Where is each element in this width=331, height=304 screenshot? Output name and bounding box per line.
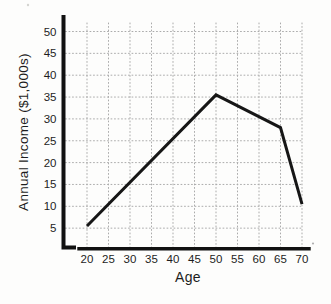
y-tick-label: 45: [44, 47, 57, 59]
x-tick-label: 30: [124, 253, 137, 265]
x-tick-label: 20: [81, 253, 94, 265]
x-tick-label: 55: [231, 253, 244, 265]
y-tick-label: 5: [50, 222, 56, 234]
x-tick-label: 50: [210, 253, 223, 265]
x-axis-title: Age: [175, 269, 201, 285]
x-tick-label: 60: [253, 253, 266, 265]
income-age-line-chart: 2025303540455055606570510152025303540455…: [0, 0, 331, 304]
y-tick-label: 50: [44, 26, 57, 38]
x-tick-label: 65: [274, 253, 287, 265]
y-tick-label: 20: [44, 157, 57, 169]
x-tick-label: 40: [167, 253, 180, 265]
y-axis-title: Annual Income ($1,000s): [16, 53, 31, 211]
y-tick-label: 35: [44, 91, 57, 103]
y-tick-label: 40: [44, 69, 57, 81]
x-tick-label: 70: [296, 253, 309, 265]
y-tick-label: 25: [44, 135, 57, 147]
x-tick-label: 35: [145, 253, 158, 265]
scan-artifact-dot: [312, 242, 314, 244]
y-tick-label: 10: [44, 200, 57, 212]
income-age-chart-figure: 2025303540455055606570510152025303540455…: [0, 0, 331, 304]
x-tick-label: 45: [188, 253, 201, 265]
y-tick-label: 30: [44, 113, 57, 125]
y-axis-line: [64, 17, 75, 248]
x-tick-label: 25: [102, 253, 115, 265]
scan-artifact-speck: [27, 4, 29, 6]
y-tick-label: 15: [44, 178, 57, 190]
